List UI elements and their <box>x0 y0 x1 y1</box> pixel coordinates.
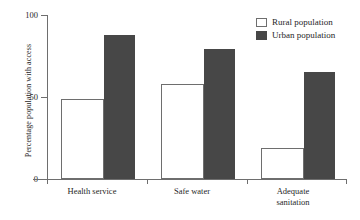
bar-rural-safe-water <box>161 84 204 179</box>
x-axis-tick-start <box>47 179 48 184</box>
bar-urban-health-service <box>104 35 135 179</box>
x-axis-tick-1 <box>147 179 148 184</box>
bar-rural-adequate-sanitation <box>261 148 304 179</box>
x-axis-line <box>33 179 347 180</box>
legend-item-urban-population: Urban population <box>256 30 335 40</box>
y-tick-label-50: 50 <box>12 92 38 102</box>
legend-swatch-urban-icon <box>256 31 267 40</box>
x-category-label-adequate-sanitation-line2: sanitation <box>253 197 333 208</box>
bar-urban-adequate-sanitation <box>304 72 335 179</box>
bar-rural-health-service <box>61 99 104 179</box>
bar-urban-safe-water <box>204 49 235 179</box>
x-category-label-health-service: Health service <box>47 186 137 197</box>
x-category-label-safe-water-line1: Safe water <box>152 186 232 197</box>
x-category-label-adequate-sanitation: Adequate sanitation <box>253 186 333 207</box>
chart-legend: Rural population Urban population <box>256 17 335 43</box>
x-category-label-adequate-sanitation-line1: Adequate <box>253 186 333 197</box>
x-axis-tick-2 <box>247 179 248 184</box>
x-category-label-health-service-line1: Health service <box>47 186 137 197</box>
bar-chart: Percentage population with access 100 50… <box>0 0 360 220</box>
x-axis-tick-end <box>346 179 347 184</box>
x-category-label-safe-water: Safe water <box>152 186 232 197</box>
legend-label-rural-population: Rural population <box>272 17 333 27</box>
legend-swatch-rural-icon <box>256 18 267 27</box>
legend-item-rural-population: Rural population <box>256 17 335 27</box>
y-tick-label-100: 100 <box>12 10 38 20</box>
legend-label-urban-population: Urban population <box>272 30 335 40</box>
